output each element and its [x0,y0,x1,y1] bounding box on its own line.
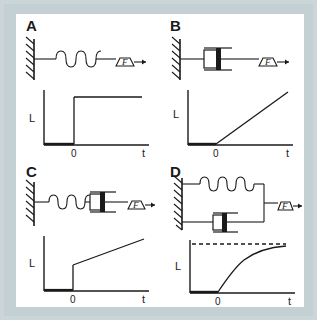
dashpot-icon [90,192,128,212]
y-axis-label: L [29,112,35,124]
y-axis-label: L [173,108,179,120]
spring-icon [200,177,254,191]
x-axis-label: t [288,295,291,306]
panel-c-graphic: F L 0 t [16,160,160,306]
spring-icon [49,195,90,209]
force-label: F [264,57,271,67]
chart-axes [44,90,149,145]
panel-b-graphic: F L 0 t [160,14,304,160]
panel-a-graphic: F L 0 t [16,14,160,160]
panel-d-graphic: F L 0 t [160,160,304,306]
panel-c: C [16,160,160,306]
force-icon: F [116,57,146,67]
x-tick-zero: 0 [70,294,76,305]
chart-axes [44,236,149,291]
force-label: F [121,57,128,67]
x-tick-zero: 0 [215,296,221,306]
x-axis-label: t [286,147,289,159]
figure-frame: A [4,4,313,316]
force-label: F [281,201,288,211]
parallel-rails [182,184,278,222]
panel-d: D [160,160,304,306]
chart-series-kelvin-voigt-creep [190,246,286,292]
x-axis-label: t [142,293,145,305]
wall-icon [174,176,182,230]
force-icon: F [128,200,155,210]
wall-icon [26,37,34,80]
x-axis-label: t [142,147,145,159]
chart-axes [190,240,295,293]
dashpot-icon [198,213,252,232]
chart-series-viscous-ramp [188,92,288,144]
chart-series-elastic-step [44,97,142,144]
y-axis-label: L [175,260,181,272]
force-icon: F [278,201,302,211]
force-label: F [132,200,139,210]
dashpot-icon [204,48,248,70]
figure-root: A [0,0,317,320]
y-axis-label: L [29,257,35,269]
panel-b: B [160,14,304,160]
chart-axes [188,90,293,145]
panel-a: A [16,14,160,160]
x-tick-zero: 0 [71,148,77,159]
spring-icon [56,51,101,67]
wall-icon [26,180,34,226]
force-icon: F [259,57,289,67]
chart-series-maxwell-creep [44,239,144,290]
wall-icon [172,37,180,80]
x-tick-zero: 0 [213,148,219,159]
